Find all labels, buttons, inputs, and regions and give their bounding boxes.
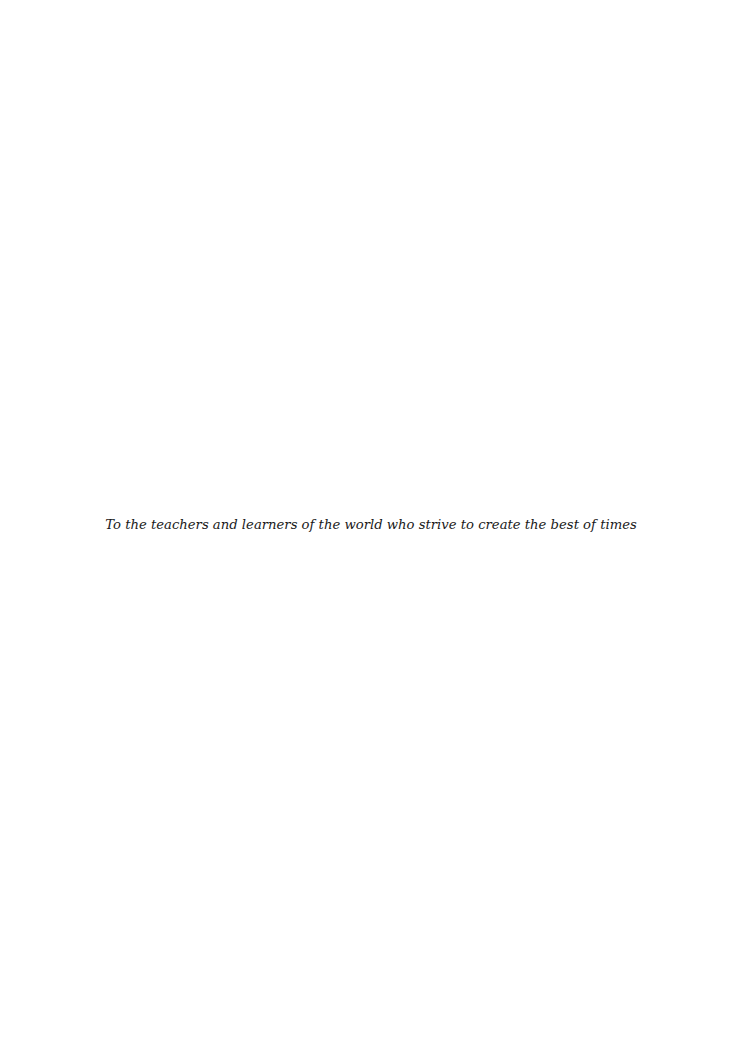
book-page: To the teachers and learners of the worl… (0, 0, 742, 1053)
dedication-text: To the teachers and learners of the worl… (0, 517, 742, 532)
